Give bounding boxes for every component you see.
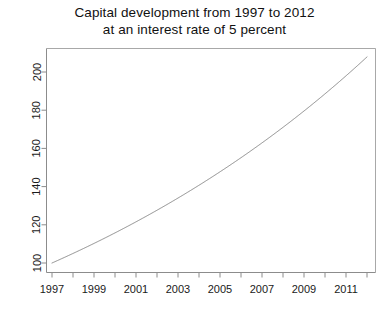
svg-text:2011: 2011 [334, 283, 358, 295]
svg-text:120: 120 [31, 216, 43, 234]
svg-text:2003: 2003 [166, 283, 190, 295]
x-axis-tick-labels: 19971999200120032005200720092011 [40, 283, 358, 295]
svg-text:1997: 1997 [40, 283, 64, 295]
svg-text:200: 200 [31, 63, 43, 81]
svg-text:140: 140 [31, 177, 43, 195]
svg-text:160: 160 [31, 139, 43, 157]
plot-frame [47, 49, 376, 273]
svg-text:180: 180 [31, 101, 43, 119]
svg-text:2005: 2005 [208, 283, 232, 295]
svg-text:2009: 2009 [292, 283, 316, 295]
svg-text:2001: 2001 [124, 283, 148, 295]
chart-canvas: 100120140160180200 199719992001200320052… [0, 0, 389, 320]
series-line-capital [52, 57, 367, 263]
y-axis-tick-labels: 100120140160180200 [31, 63, 43, 272]
svg-text:1999: 1999 [82, 283, 106, 295]
x-axis-ticks [52, 273, 367, 278]
svg-text:100: 100 [31, 254, 43, 272]
svg-text:2007: 2007 [250, 283, 274, 295]
chart-figure: Capital development from 1997 to 2012 at… [0, 0, 389, 320]
